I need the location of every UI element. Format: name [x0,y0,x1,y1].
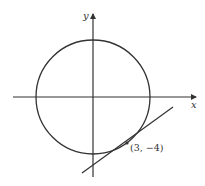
x-axis-label: x [191,99,197,110]
tangent-line [82,107,173,173]
tangent-point [125,141,128,144]
point-label: (3, −4) [130,142,164,153]
circle-tangent-diagram: y x (3, −4) [0,0,205,186]
y-axis-label: y [82,10,89,21]
